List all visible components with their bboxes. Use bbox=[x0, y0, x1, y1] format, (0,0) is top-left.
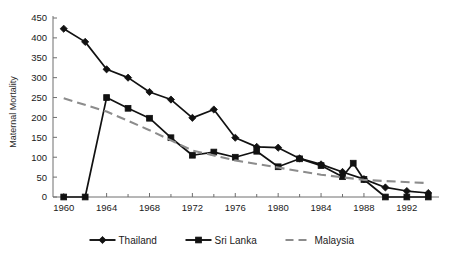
x-axis-tick-labels: 196019641968197219761980198419881992 bbox=[53, 202, 417, 213]
series-line bbox=[64, 29, 429, 193]
legend-label: Sri Lanka bbox=[215, 235, 258, 246]
data-point-square bbox=[196, 237, 202, 243]
x-tick-label: 1968 bbox=[139, 202, 160, 213]
x-tick-label: 1960 bbox=[53, 202, 74, 213]
data-point-diamond bbox=[382, 184, 389, 191]
data-point-diamond bbox=[99, 236, 106, 243]
x-axis-ticks bbox=[64, 193, 429, 197]
data-point-square bbox=[425, 194, 431, 200]
y-tick-label: 150 bbox=[31, 132, 47, 143]
legend-item-thailand[interactable]: Thailand bbox=[90, 235, 157, 246]
y-axis-title: Maternal Mortality bbox=[8, 76, 18, 148]
data-point-square bbox=[340, 174, 346, 180]
axis-lines bbox=[53, 16, 439, 197]
x-tick-label: 1972 bbox=[182, 202, 203, 213]
legend-label: Malaysia bbox=[315, 235, 355, 246]
data-point-diamond bbox=[275, 144, 282, 151]
maternal-mortality-line-chart: Maternal Mortality 050100150200250300350… bbox=[0, 0, 451, 259]
y-tick-label: 100 bbox=[31, 152, 47, 163]
data-point-square bbox=[318, 163, 324, 169]
data-point-square bbox=[350, 160, 356, 166]
y-axis-ticks bbox=[53, 18, 57, 197]
data-point-square bbox=[404, 194, 410, 200]
data-point-square bbox=[82, 194, 88, 200]
data-point-square bbox=[104, 95, 110, 101]
data-point-square bbox=[61, 194, 67, 200]
y-tick-label: 300 bbox=[31, 72, 47, 83]
data-point-square bbox=[189, 152, 195, 158]
x-tick-label: 1984 bbox=[310, 202, 331, 213]
series-malaysia bbox=[64, 98, 429, 183]
x-tick-label: 1976 bbox=[225, 202, 246, 213]
y-tick-label: 200 bbox=[31, 112, 47, 123]
y-tick-label: 50 bbox=[36, 172, 47, 183]
y-tick-label: 400 bbox=[31, 32, 47, 43]
legend-label: Thailand bbox=[119, 235, 157, 246]
series-line bbox=[64, 98, 429, 183]
legend-item-sri-lanka[interactable]: Sri Lanka bbox=[186, 235, 258, 246]
chart-legend: ThailandSri LankaMalaysia bbox=[90, 235, 355, 246]
y-tick-label: 350 bbox=[31, 52, 47, 63]
data-point-square bbox=[382, 194, 388, 200]
y-tick-label: 0 bbox=[42, 191, 47, 202]
x-tick-label: 1988 bbox=[353, 202, 374, 213]
data-point-square bbox=[147, 115, 153, 121]
series-thailand bbox=[60, 25, 432, 196]
data-point-diamond bbox=[403, 187, 410, 194]
y-axis-tick-labels: 050100150200250300350400450 bbox=[31, 12, 47, 202]
x-tick-label: 1992 bbox=[396, 202, 417, 213]
chart-canvas: Maternal Mortality 050100150200250300350… bbox=[0, 0, 451, 259]
y-tick-label: 450 bbox=[31, 12, 47, 23]
data-point-square bbox=[125, 105, 131, 111]
x-tick-label: 1964 bbox=[96, 202, 117, 213]
y-axis-title-group: Maternal Mortality bbox=[8, 76, 18, 148]
legend-item-malaysia[interactable]: Malaysia bbox=[286, 235, 355, 246]
y-tick-label: 250 bbox=[31, 92, 47, 103]
data-series-layer bbox=[60, 25, 432, 200]
data-point-square bbox=[254, 148, 260, 154]
x-tick-label: 1980 bbox=[268, 202, 289, 213]
data-point-square bbox=[297, 156, 303, 162]
data-point-square bbox=[232, 154, 238, 160]
